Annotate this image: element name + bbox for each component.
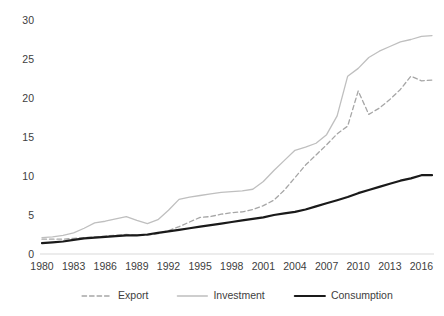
y-tick-label: 10: [22, 170, 34, 182]
y-tick-label: 5: [28, 209, 34, 221]
series-line-export: [42, 76, 432, 239]
y-tick-label: 15: [22, 131, 34, 143]
y-tick-label: 25: [22, 53, 34, 65]
x-tick-label: 2007: [315, 260, 339, 272]
x-tick-label: 2016: [410, 260, 434, 272]
x-tick-label: 1998: [220, 260, 244, 272]
chart-legend: ExportInvestmentConsumption: [82, 289, 393, 301]
y-tick-label: 20: [22, 92, 34, 104]
x-tick-label: 1986: [94, 260, 118, 272]
x-tick-label: 2004: [283, 260, 307, 272]
legend-label-investment: Investment: [213, 289, 264, 301]
x-tick-label: 1989: [125, 260, 149, 272]
y-axis-tick-labels: 051015202530: [22, 14, 34, 260]
series-line-consumption: [42, 175, 432, 243]
x-axis-tick-labels: 1980198319861989199219951998200120042007…: [30, 260, 433, 272]
x-tick-label: 1980: [30, 260, 54, 272]
x-tick-label: 1983: [62, 260, 86, 272]
x-tick-label: 2001: [252, 260, 276, 272]
y-tick-label: 30: [22, 14, 34, 26]
x-tick-label: 1992: [157, 260, 181, 272]
chart-canvas: 051015202530 198019831986198919921995199…: [0, 0, 444, 316]
legend-label-export: Export: [118, 289, 148, 301]
legend-label-consumption: Consumption: [331, 289, 393, 301]
data-series-group: [42, 36, 432, 243]
line-chart: 051015202530 198019831986198919921995199…: [0, 0, 444, 316]
x-tick-label: 1995: [188, 260, 212, 272]
x-tick-label: 2010: [347, 260, 371, 272]
y-tick-label: 0: [28, 248, 34, 260]
x-tick-label: 2013: [378, 260, 402, 272]
series-line-investment: [42, 36, 432, 238]
